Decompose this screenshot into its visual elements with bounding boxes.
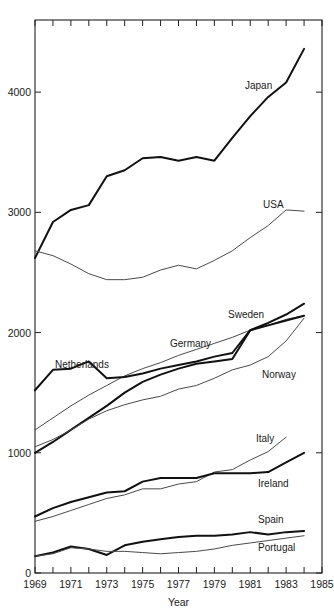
series-label-italy: Italy — [256, 433, 274, 444]
x-tick-label: 1973 — [95, 578, 119, 590]
x-tick-label: 1983 — [274, 578, 298, 590]
line-chart-figure: 1969197119731975197719791981198319850100… — [0, 0, 334, 608]
series-label-spain: Spain — [258, 514, 284, 525]
plot-frame — [35, 20, 322, 573]
series-label-germany: Germany — [170, 338, 211, 349]
x-tick-label: 1981 — [239, 578, 263, 590]
x-tick-label: 1969 — [23, 578, 47, 590]
chart-canvas: 1969197119731975197719791981198319850100… — [0, 0, 334, 608]
y-tick-label: 2000 — [8, 327, 32, 339]
series-label-sweden: Sweden — [228, 309, 264, 320]
y-tick-label: 3000 — [8, 206, 32, 218]
series-line-usa — [35, 210, 304, 280]
y-tick-label: 1000 — [8, 447, 32, 459]
series-label-japan: Japan — [245, 80, 272, 91]
series-label-usa: USA — [263, 199, 284, 210]
series-label-netherlands: Netherlands — [55, 359, 109, 370]
x-tick-label: 1971 — [59, 578, 83, 590]
x-axis-title: Year — [168, 596, 190, 608]
x-tick-label: 1977 — [167, 578, 191, 590]
series-label-ireland: Ireland — [258, 478, 289, 489]
series-label-portugal: Portugal — [258, 542, 295, 553]
series-line-italy — [35, 437, 286, 521]
y-tick-label: 4000 — [8, 86, 32, 98]
x-tick-label: 1979 — [203, 578, 227, 590]
x-tick-label: 1975 — [131, 578, 155, 590]
series-label-norway: Norway — [262, 369, 296, 380]
x-tick-label: 1985 — [310, 578, 334, 590]
y-tick-label: 0 — [25, 567, 31, 579]
